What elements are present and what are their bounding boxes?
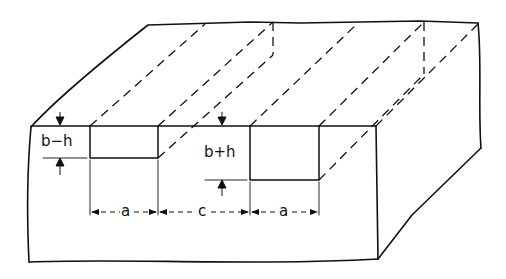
groove2-outline [250,126,319,180]
right-face-back-edge [478,23,481,148]
hidden-line-right-corner [376,24,478,126]
width1-label: a [121,204,130,219]
arrow-left-icon [159,209,167,215]
arrow-right-icon [310,209,318,215]
front-face-right-edge [376,126,378,259]
arrow-right-icon [149,209,157,215]
hidden-line-g1-left [90,24,205,126]
groove1-depth-label: b−h [41,134,73,149]
front-face-bottom-edge [29,259,378,262]
arrow-left-icon [251,209,259,215]
arrow-up-icon [218,180,226,188]
arrow-up-icon [56,158,64,166]
hidden-line-g2-right-top [319,22,424,126]
front-face-left-edge [28,127,31,262]
arrow-down-icon [218,117,226,125]
diagram-drawing [0,0,506,279]
width2-label: a [279,204,288,219]
hidden-line-g2-left [250,24,357,126]
arrow-down-icon [56,117,64,125]
right-face-bottom-edge [378,148,481,259]
hidden-line-g1-right-top [158,22,273,126]
top-face-outline [31,21,478,127]
block-groove-diagram: b−h b+h a c a [0,0,506,279]
spacing-label: c [198,204,206,219]
groove2-depth-label: b+h [204,145,236,160]
arrow-left-icon [91,209,99,215]
arrow-right-icon [241,209,249,215]
hidden-line-g2-right-bottom [319,74,424,180]
groove1-outline [90,126,158,158]
